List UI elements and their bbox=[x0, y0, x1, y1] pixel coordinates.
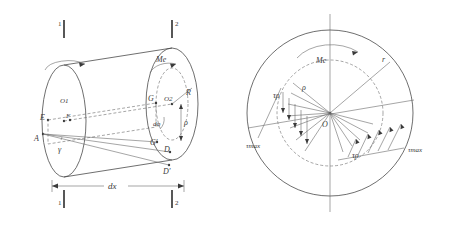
label-section-1-bottom: 1 bbox=[58, 199, 62, 207]
figure-root: Me O2 R ρ O1 A E bbox=[0, 0, 464, 226]
label-section-2-top: 2 bbox=[175, 20, 179, 28]
rho-dim-arrow-bottom bbox=[179, 136, 183, 141]
label-O: O bbox=[322, 120, 328, 129]
point-G-dot bbox=[155, 102, 157, 104]
label-section-1-top: 1 bbox=[58, 20, 62, 28]
right-arrow-head-4 bbox=[390, 127, 394, 132]
left-arrow-head-2 bbox=[287, 115, 291, 120]
rho-dim-arrow-top bbox=[179, 104, 183, 109]
label-D: D bbox=[163, 145, 170, 154]
label-tau-max-right: τmax bbox=[408, 146, 423, 154]
label-o1: O1 bbox=[60, 97, 69, 105]
left-arrow-head-5 bbox=[305, 139, 309, 144]
moment-arc-right bbox=[297, 45, 358, 58]
left-stress-ray-6 bbox=[305, 113, 330, 151]
dx-arrow-right bbox=[178, 184, 184, 189]
label-tau-rho-right: τρ bbox=[352, 151, 359, 160]
left-stress-fan: τρ τmax bbox=[246, 88, 330, 151]
right-stress-fan: τρ τmax bbox=[330, 113, 423, 160]
label-F: F bbox=[65, 112, 71, 120]
label-dphi: dφ bbox=[153, 120, 161, 128]
rho-line-right bbox=[293, 83, 330, 113]
label-rho-right: ρ bbox=[301, 83, 306, 92]
left-stress-ray-2 bbox=[288, 104, 330, 113]
label-dx: dx bbox=[108, 181, 117, 191]
label-tau-max-left: τmax bbox=[246, 142, 261, 150]
shaft-bottom-generator bbox=[64, 160, 172, 177]
right-stress-envelope bbox=[338, 148, 404, 160]
right-arrow-shaft-2 bbox=[358, 134, 368, 155]
label-G: G bbox=[148, 94, 154, 103]
label-moment-left: Me bbox=[155, 55, 167, 64]
label-D-prime: D′ bbox=[162, 167, 171, 176]
dphi-angle-arc bbox=[160, 117, 164, 129]
left-arrow-head-1 bbox=[281, 108, 285, 113]
dx-arrow-left bbox=[52, 184, 58, 189]
moment-arrowhead bbox=[170, 64, 176, 69]
right-arrow-shaft-4 bbox=[378, 127, 390, 151]
right-arrow-head-5 bbox=[401, 124, 405, 129]
label-rho-left: ρ bbox=[183, 118, 188, 127]
right-arrow-head-3 bbox=[379, 130, 383, 135]
right-arrow-head-2 bbox=[368, 134, 372, 139]
right-cross-section-diagram: O Me r ρ bbox=[246, 14, 423, 212]
right-arrow-shaft-3 bbox=[368, 130, 379, 153]
torsion-figure-svg: Me O2 R ρ O1 A E bbox=[0, 0, 464, 226]
label-A: A bbox=[33, 134, 39, 143]
label-R: R bbox=[185, 88, 191, 97]
label-moment-right: Me bbox=[315, 56, 327, 65]
label-gamma: γ bbox=[58, 145, 62, 154]
twist-direction-arrowhead bbox=[79, 63, 85, 68]
label-section-2-bottom: 2 bbox=[175, 199, 179, 207]
label-tau-rho-left: τρ bbox=[273, 91, 280, 100]
label-o2: O2 bbox=[164, 95, 173, 103]
left-stress-ray-1 bbox=[291, 93, 330, 113]
label-r: r bbox=[382, 55, 386, 64]
left-shaft-diagram: Me O2 R ρ O1 A E bbox=[33, 20, 198, 208]
label-G-prime: G′ bbox=[150, 138, 158, 147]
label-E: E bbox=[39, 113, 45, 122]
right-arrow-head-1 bbox=[356, 139, 360, 144]
